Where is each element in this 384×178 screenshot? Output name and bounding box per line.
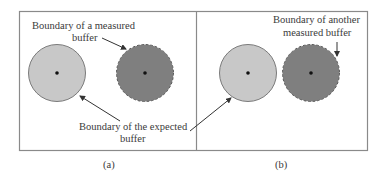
measured-label-line1: Boundary of a measured	[32, 20, 136, 31]
expected-label-line1: Boundary of the expected	[79, 121, 188, 132]
panel-a-caption: (a)	[103, 159, 115, 171]
center-point-icon	[309, 71, 313, 75]
center-point-icon	[246, 71, 250, 75]
buffer-comparison-figure: Boundary of a measured buffer Boundary o…	[0, 0, 384, 178]
center-point-icon	[55, 71, 59, 75]
measured-label-line2: measured buffer	[283, 27, 352, 38]
center-point-icon	[143, 71, 147, 75]
panel-b-caption: (b)	[275, 159, 288, 171]
expected-label-line2: buffer	[120, 133, 146, 144]
measured-label-line2: buffer	[72, 32, 98, 43]
measured-label-line1: Boundary of another	[273, 14, 360, 25]
